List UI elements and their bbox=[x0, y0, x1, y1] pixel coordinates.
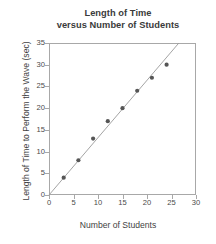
data-point bbox=[150, 76, 154, 80]
data-point bbox=[135, 89, 139, 93]
chart-title: Length of Time versus Number of Students bbox=[28, 8, 208, 31]
chart-figure: Length of Time versus Number of Students… bbox=[0, 0, 216, 244]
y-axis-title: Length of Time to Perform the Wave (sec) bbox=[21, 21, 31, 221]
y-axis-tick-label: 10 bbox=[31, 148, 45, 156]
x-axis-tick-label: 10 bbox=[88, 199, 108, 207]
chart-title-line-1: Length of Time bbox=[28, 8, 208, 20]
y-axis-tick-label: 20 bbox=[31, 104, 45, 112]
y-axis-tick-mark bbox=[45, 130, 49, 131]
y-axis-tick-mark bbox=[45, 173, 49, 174]
y-axis-tick-labels: 05101520253035 bbox=[30, 0, 45, 244]
x-axis-tick-mark bbox=[98, 195, 99, 199]
y-axis-tick-mark bbox=[45, 152, 49, 153]
x-axis-tick-label: 0 bbox=[39, 199, 59, 207]
y-axis-tick-mark bbox=[45, 108, 49, 109]
x-axis-tick-mark bbox=[123, 195, 124, 199]
y-axis-tick-label: 0 bbox=[31, 191, 45, 199]
y-axis-tick-mark bbox=[45, 86, 49, 87]
x-axis-tick-label: 5 bbox=[64, 199, 84, 207]
y-axis-tick-label: 25 bbox=[31, 82, 45, 90]
x-axis-tick-mark bbox=[172, 195, 173, 199]
y-axis-tick-label: 35 bbox=[31, 39, 45, 47]
y-axis-tick-label: 15 bbox=[31, 126, 45, 134]
y-axis-tick-label: 5 bbox=[31, 169, 45, 177]
x-axis-tick-label: 15 bbox=[113, 199, 133, 207]
data-point bbox=[62, 176, 66, 180]
trend-line-segment bbox=[49, 43, 179, 195]
chart-title-line-2: versus Number of Students bbox=[28, 20, 208, 32]
data-point bbox=[165, 63, 169, 67]
plot-canvas bbox=[49, 43, 196, 195]
data-point bbox=[106, 119, 110, 123]
x-axis-tick-label: 20 bbox=[137, 199, 157, 207]
x-axis-title: Number of Students bbox=[28, 220, 208, 230]
data-point bbox=[91, 136, 95, 140]
data-point bbox=[76, 158, 80, 162]
x-axis-tick-mark bbox=[196, 195, 197, 199]
x-axis-tick-mark bbox=[147, 195, 148, 199]
data-point bbox=[120, 106, 124, 110]
data-point-series bbox=[62, 63, 169, 180]
y-axis-tick-mark bbox=[45, 43, 49, 44]
x-axis-tick-label: 25 bbox=[162, 199, 182, 207]
y-axis-tick-label: 30 bbox=[31, 61, 45, 69]
x-axis-tick-mark bbox=[74, 195, 75, 199]
x-axis-tick-mark bbox=[49, 195, 50, 199]
trend-line bbox=[49, 43, 179, 195]
x-axis-tick-label: 30 bbox=[186, 199, 206, 207]
y-axis-tick-mark bbox=[45, 65, 49, 66]
